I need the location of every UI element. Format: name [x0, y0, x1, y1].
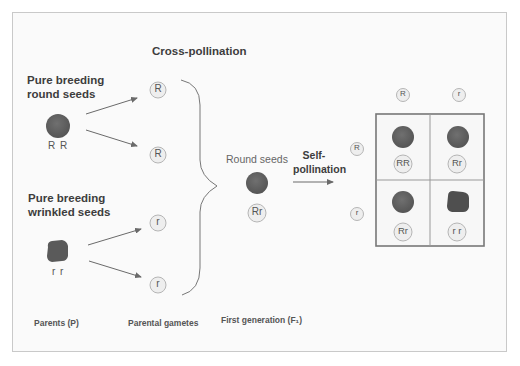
round-seed-icon — [447, 126, 469, 148]
round-seed-icon — [392, 126, 414, 148]
f1-label: Round seeds — [226, 153, 288, 165]
footer-parents: Parents (P) — [34, 318, 79, 328]
punnett-cell-genotype: RR — [392, 157, 414, 168]
f1-seed-icon — [246, 172, 268, 194]
arrow-icon — [89, 261, 141, 277]
punnett-cell-genotype: Rr — [392, 225, 414, 236]
punnett-cell-genotype: r r — [446, 225, 468, 236]
footer-first-generation: First generation (F₁) — [221, 315, 302, 325]
f1-genotype: Rr — [247, 206, 267, 217]
round-seed-icon — [46, 114, 70, 138]
gamete-label: r — [152, 216, 164, 227]
gamete-label: r — [152, 278, 164, 289]
round-parent-heading-2: round seeds — [27, 87, 95, 102]
self-pollination-label-2: pollination — [293, 163, 335, 175]
diagram-graphics — [0, 0, 520, 366]
wrinkled-parent-genotype: r r — [52, 266, 64, 277]
arrow-icon — [86, 130, 137, 146]
footer-gametes: Parental gametes — [128, 318, 198, 328]
punnett-row-header: R — [351, 143, 363, 152]
wrinkled-seed-icon — [447, 191, 469, 212]
brace-icon — [181, 80, 217, 295]
self-pollination-label-1: Self- — [293, 149, 335, 161]
round-parent-genotype: R R — [48, 140, 68, 151]
wrinkled-seed-icon — [47, 240, 68, 262]
wrinkled-parent-heading-2: wrinkled seeds — [28, 205, 110, 220]
diagram-title: Cross-pollination — [152, 44, 247, 59]
gamete-label: R — [152, 148, 164, 159]
gamete-label: R — [152, 83, 164, 94]
punnett-col-header: r — [453, 89, 465, 98]
punnett-col-header: R — [397, 89, 409, 98]
wrinkled-parent-heading-1: Pure breeding — [28, 191, 105, 206]
punnett-cell-genotype: Rr — [446, 157, 468, 168]
round-seed-icon — [392, 191, 414, 213]
arrow-icon — [88, 229, 141, 245]
round-parent-heading-1: Pure breeding — [27, 73, 104, 88]
punnett-row-header: r — [351, 208, 363, 217]
